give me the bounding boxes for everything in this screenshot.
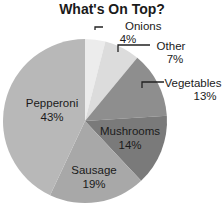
label-other-pct: 7% xyxy=(167,53,184,65)
label-sausage-name: Sausage xyxy=(71,164,116,176)
label-mushrooms-pct: 14% xyxy=(118,139,141,151)
label-other-name: Other xyxy=(157,40,186,52)
pie-chart: Onions 4% Other 7% Vegetables 13% Mushro… xyxy=(0,0,224,207)
label-pepperoni-pct: 43% xyxy=(40,111,63,123)
label-sausage-pct: 19% xyxy=(82,178,105,190)
leader-line-onions xyxy=(95,27,103,30)
label-vegetables-name: Vegetables xyxy=(165,77,222,89)
label-onions-pct: 4% xyxy=(120,33,137,45)
label-pepperoni-name: Pepperoni xyxy=(26,97,78,109)
label-vegetables-pct: 13% xyxy=(193,90,216,102)
label-onions-name: Onions xyxy=(125,20,162,32)
label-mushrooms-name: Mushrooms xyxy=(100,125,160,137)
